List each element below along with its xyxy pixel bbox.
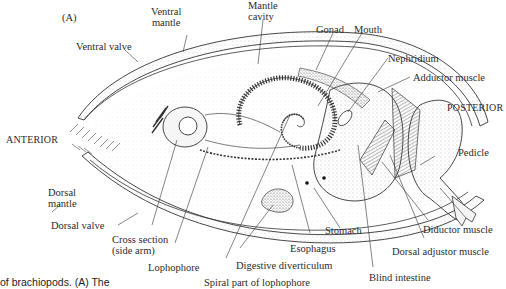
label-stomach: Stomach [325, 225, 362, 236]
label-mantle-cavity: Mantle cavity [248, 0, 278, 22]
label-adductor-muscle: Adductor muscle [413, 72, 485, 83]
label-digestive-diverticulum: Digestive diverticulum [236, 260, 333, 271]
label-gonad: Gonad [316, 24, 344, 35]
label-lophophore: Lophophore [148, 262, 199, 273]
brachiopod-anatomy-figure: (A) Ventral mantle Ventral valve Mantle … [0, 0, 506, 289]
label-pedicle: Pedicle [458, 147, 489, 158]
label-anterior: ANTERIOR [6, 134, 58, 145]
label-nephridium: Nephridium [388, 53, 439, 64]
label-posterior: POSTERIOR [447, 102, 503, 113]
label-diductor-muscle: Diductor muscle [423, 224, 493, 235]
label-blind-intestine: Blind intestine [369, 272, 431, 283]
label-cross-section: Cross section (side arm) [112, 234, 168, 256]
label-spiral-part-of-lophophore: Spiral part of lophophore [204, 277, 310, 288]
label-dorsal-mantle: Dorsal mantle [48, 187, 77, 209]
label-dorsal-adjustor-muscle: Dorsal adjustor muscle [392, 246, 489, 257]
label-mouth: Mouth [354, 24, 382, 35]
label-esophagus: Esophagus [290, 243, 336, 254]
panel-letter: (A) [62, 12, 77, 23]
label-dorsal-valve: Dorsal valve [51, 220, 104, 231]
figure-caption: of brachiopods. (A) The [0, 276, 110, 288]
label-ventral-mantle: Ventral mantle [151, 6, 181, 28]
label-ventral-valve: Ventral valve [76, 41, 132, 52]
